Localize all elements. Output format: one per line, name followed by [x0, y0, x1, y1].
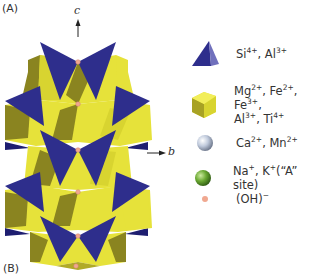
legend-label-na-k: Na+, K+(“A” site): [233, 164, 318, 192]
legend-item-octahedron: Mg2+, Fe2+, Fe3+, Al3+, Ti4+: [188, 84, 318, 126]
legend-label-si-al: Si4+, Al3+: [236, 47, 287, 61]
legend-item-ca-mn: Ca2+, Mn2+: [188, 134, 298, 152]
legend-item-na-k: Na+, K+(“A” site): [188, 164, 318, 192]
legend-label-ca-mn: Ca2+, Mn2+: [236, 136, 298, 150]
legend-label-octahedral-cations: Mg2+, Fe2+, Fe3+, Al3+, Ti4+: [234, 84, 318, 126]
amphibole-chain-structure: [0, 0, 180, 278]
oh-sphere-icon: [188, 194, 222, 204]
b-axis-arrow-icon: [147, 151, 166, 156]
c-axis-arrow-icon: [76, 19, 81, 37]
legend-item-oh: (OH)−: [188, 192, 269, 206]
na-k-sphere-icon: [188, 169, 219, 187]
octahedron-icon: [188, 90, 220, 120]
b-axis-label: b: [168, 145, 175, 158]
tetrahedron-icon: [188, 40, 222, 68]
legend-item-tetrahedron: Si4+, Al3+: [188, 40, 287, 68]
ca-mn-sphere-icon: [188, 134, 222, 152]
c-axis-label: c: [74, 4, 80, 17]
legend-label-oh: (OH)−: [236, 192, 269, 206]
